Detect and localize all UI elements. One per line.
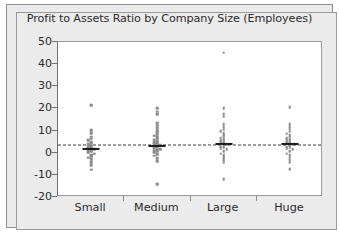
grand-mean-reference-line bbox=[58, 145, 321, 146]
x-axis-tick-label-medium: Medium bbox=[134, 201, 179, 214]
plot-surface bbox=[58, 42, 321, 195]
plot-area bbox=[57, 41, 322, 196]
chart-title: Profit to Assets Ratio by Company Size (… bbox=[9, 12, 330, 25]
x-axis-tick-label-small: Small bbox=[75, 201, 106, 214]
y-axis-tick-label: -20 bbox=[22, 190, 52, 203]
data-point bbox=[222, 107, 225, 110]
data-point bbox=[90, 104, 93, 107]
data-point bbox=[90, 164, 93, 167]
data-point bbox=[289, 168, 292, 171]
y-axis-tick-label: 0 bbox=[22, 145, 52, 158]
data-point bbox=[159, 148, 162, 151]
y-axis-tick-label: -10 bbox=[22, 167, 52, 180]
data-point bbox=[222, 51, 225, 54]
data-point bbox=[289, 151, 292, 154]
group-mean-marker-small bbox=[83, 148, 100, 150]
data-point bbox=[222, 116, 225, 119]
data-point bbox=[222, 128, 225, 131]
y-axis-tick-label: 20 bbox=[22, 101, 52, 114]
y-axis-tick-mark bbox=[52, 196, 57, 197]
data-point bbox=[93, 153, 96, 156]
chart-figure: Profit to Assets Ratio by Company Size (… bbox=[0, 0, 339, 236]
data-point bbox=[222, 178, 225, 181]
x-axis-tick-mark bbox=[123, 196, 124, 201]
data-point bbox=[90, 168, 93, 171]
group-mean-marker-huge bbox=[281, 143, 298, 145]
y-axis-tick-label: 40 bbox=[22, 57, 52, 70]
y-axis-tick-label: 30 bbox=[22, 79, 52, 92]
x-axis-tick-mark bbox=[190, 196, 191, 201]
x-axis-tick-label-large: Large bbox=[207, 201, 238, 214]
data-point bbox=[156, 160, 159, 163]
y-axis-tick-label: 50 bbox=[22, 35, 52, 48]
data-point bbox=[156, 183, 159, 186]
data-point bbox=[222, 162, 225, 165]
x-axis-tick-label-huge: Huge bbox=[274, 201, 304, 214]
group-mean-marker-large bbox=[215, 143, 232, 145]
data-point bbox=[225, 148, 228, 151]
data-point bbox=[289, 162, 292, 165]
data-point bbox=[289, 106, 292, 109]
data-point bbox=[292, 148, 295, 151]
data-point bbox=[156, 113, 159, 116]
data-point bbox=[289, 131, 292, 134]
group-mean-marker-medium bbox=[149, 145, 166, 147]
data-point bbox=[222, 151, 225, 154]
data-point bbox=[156, 153, 159, 156]
data-point bbox=[90, 132, 93, 135]
data-point bbox=[156, 107, 159, 110]
x-axis-tick-mark bbox=[256, 196, 257, 201]
y-axis-tick-label: 10 bbox=[22, 123, 52, 136]
y-axis-tick-labels: 50403020100-10-20 bbox=[18, 41, 52, 196]
